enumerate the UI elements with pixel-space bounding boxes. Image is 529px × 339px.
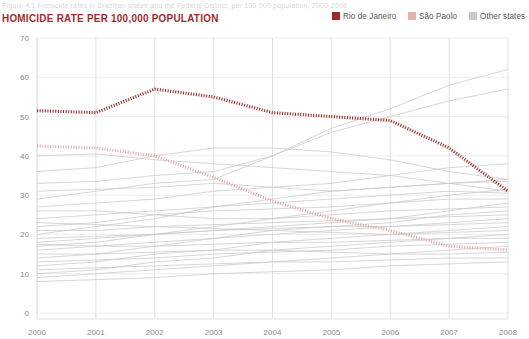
- y-axis-tick-label: 40: [20, 152, 29, 161]
- legend-item-other-states[interactable]: Other states: [469, 11, 528, 21]
- legend-label: São Paolo: [419, 11, 457, 21]
- gridlines: [37, 38, 508, 319]
- chart-title: HOMICIDE RATE PER 100,000 POPULATION: [2, 12, 219, 24]
- chart-legend: Rio de Janeiro São Paolo Other states: [332, 11, 527, 21]
- legend-label: Rio de Janeiro: [343, 11, 396, 21]
- chart-plot-area: 010203040506070 200020012002200320042005…: [0, 26, 529, 339]
- x-axis-tick-label: 2002: [146, 328, 164, 337]
- square-swatch-icon: [332, 12, 340, 20]
- legend-label: Other states: [480, 11, 525, 21]
- x-axis-tick-label: 2000: [28, 328, 46, 337]
- y-axis-tick-label: 0: [25, 309, 30, 318]
- y-axis-tick-label: 60: [20, 73, 29, 82]
- x-axis-tick-label: 2001: [87, 328, 105, 337]
- y-axis-tick-label: 10: [20, 270, 29, 279]
- figure-caption: Figure 4.1 Homicide rates in Brazilian s…: [0, 0, 529, 11]
- x-axis-tick-label: 2006: [381, 328, 399, 337]
- square-swatch-icon: [469, 12, 477, 20]
- x-axis-tick-label: 2008: [499, 328, 517, 337]
- y-axis-tick-label: 20: [20, 230, 29, 239]
- x-axis-tick-label: 2003: [205, 328, 223, 337]
- y-axis-tick-label: 70: [20, 34, 29, 43]
- y-axis-tick-label: 50: [20, 113, 29, 122]
- square-swatch-icon: [408, 12, 416, 20]
- legend-item-sao-paolo[interactable]: São Paolo: [408, 11, 459, 21]
- y-axis-tick-labels: 010203040506070: [20, 34, 29, 318]
- legend-item-rio-de-janeiro[interactable]: Rio de Janeiro: [332, 11, 399, 21]
- x-axis-tick-label: 2005: [322, 328, 340, 337]
- y-axis-tick-label: 30: [20, 191, 29, 200]
- line-chart-svg: 010203040506070 200020012002200320042005…: [0, 26, 529, 339]
- x-axis-tick-label: 2007: [440, 328, 458, 337]
- x-axis-tick-label: 2004: [264, 328, 282, 337]
- x-axis-tick-labels: 200020012002200320042005200620072008: [28, 328, 517, 337]
